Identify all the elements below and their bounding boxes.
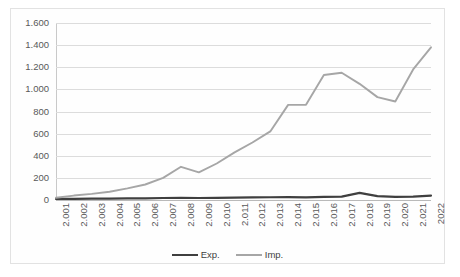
chart-card: 02004006008001.0001.2001.4001.600 2.0012…	[10, 8, 445, 264]
x-tick-label: 2.001	[60, 203, 71, 227]
x-tick-label: 2.011	[239, 203, 250, 226]
x-tick-label: 2.014	[292, 203, 303, 227]
y-tick-label: 1.600	[0, 17, 49, 28]
x-tick-label: 2.007	[167, 203, 178, 227]
legend-label-exp: Exp.	[201, 249, 220, 260]
legend-line-imp-icon	[236, 254, 262, 256]
x-tick-label: 2.002	[78, 203, 89, 227]
y-tick-label: 1.400	[0, 39, 49, 50]
legend-item-exp[interactable]: Exp.	[172, 249, 220, 260]
series-line-exp	[56, 193, 431, 199]
x-tick-label: 2.004	[114, 203, 125, 227]
x-tick-label: 2.006	[149, 203, 160, 227]
y-tick-label: 800	[0, 106, 49, 117]
y-tick-label: 400	[0, 150, 49, 161]
x-tick-label: 2.012	[256, 203, 267, 227]
x-tick-label: 2.021	[417, 203, 428, 227]
y-tick-label: 1.200	[0, 61, 49, 72]
x-tick-label: 2.010	[221, 203, 232, 227]
y-tick-label: 1.000	[0, 83, 49, 94]
x-tick-label: 2.005	[131, 203, 142, 227]
legend-label-imp: Imp.	[265, 249, 283, 260]
y-tick-label: 0	[0, 194, 49, 205]
x-tick-label: 2.008	[185, 203, 196, 227]
chart-legend: Exp. Imp.	[11, 249, 444, 260]
series-line-imp	[56, 47, 431, 197]
x-tick-label: 2.003	[96, 203, 107, 227]
legend-line-exp-icon	[172, 254, 198, 256]
series-lines	[56, 23, 431, 200]
x-tick-label: 2.018	[364, 203, 375, 227]
legend-item-imp[interactable]: Imp.	[236, 249, 283, 260]
x-tick-label: 2022	[435, 203, 446, 224]
x-tick-label: 2.019	[381, 203, 392, 227]
x-tick-label: 2.015	[310, 203, 321, 227]
x-tick-label: 2.013	[274, 203, 285, 227]
x-tick-label: 2.020	[399, 203, 410, 227]
y-tick-label: 200	[0, 172, 49, 183]
x-tick-label: 2.017	[346, 203, 357, 227]
plot-area: 02004006008001.0001.2001.4001.600	[56, 23, 431, 200]
x-tick-label: 2.016	[328, 203, 339, 227]
y-tick-label: 600	[0, 128, 49, 139]
x-tick-label: 2.009	[203, 203, 214, 227]
